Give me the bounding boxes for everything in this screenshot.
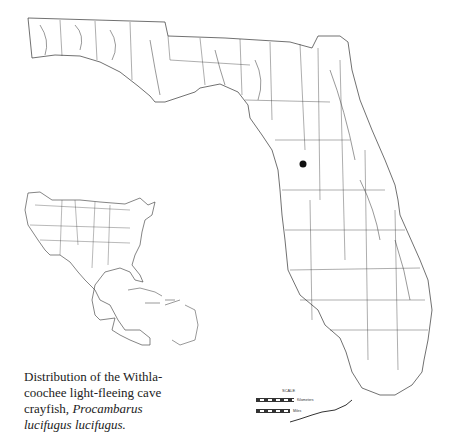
- caption-line-1: Distribution of the Withla-: [24, 369, 194, 385]
- mi-label: Miles: [293, 409, 301, 413]
- map-caption: Distribution of the Withla- coochee ligh…: [24, 369, 194, 433]
- inset-north-america: [25, 192, 155, 345]
- caption-line-2: coochee light-fleeing cave: [24, 385, 194, 401]
- km-label: Kilometers: [297, 398, 314, 402]
- locality-marker: [300, 161, 307, 168]
- mi-scale-bar: [256, 409, 290, 413]
- scale-title: SCALE: [282, 388, 295, 393]
- caption-species: lucifugus lucifugus.: [24, 417, 126, 432]
- caption-genus: Procambarus: [72, 401, 142, 416]
- km-scale-bar: [256, 398, 294, 402]
- caption-line-3: crayfish,: [24, 401, 72, 416]
